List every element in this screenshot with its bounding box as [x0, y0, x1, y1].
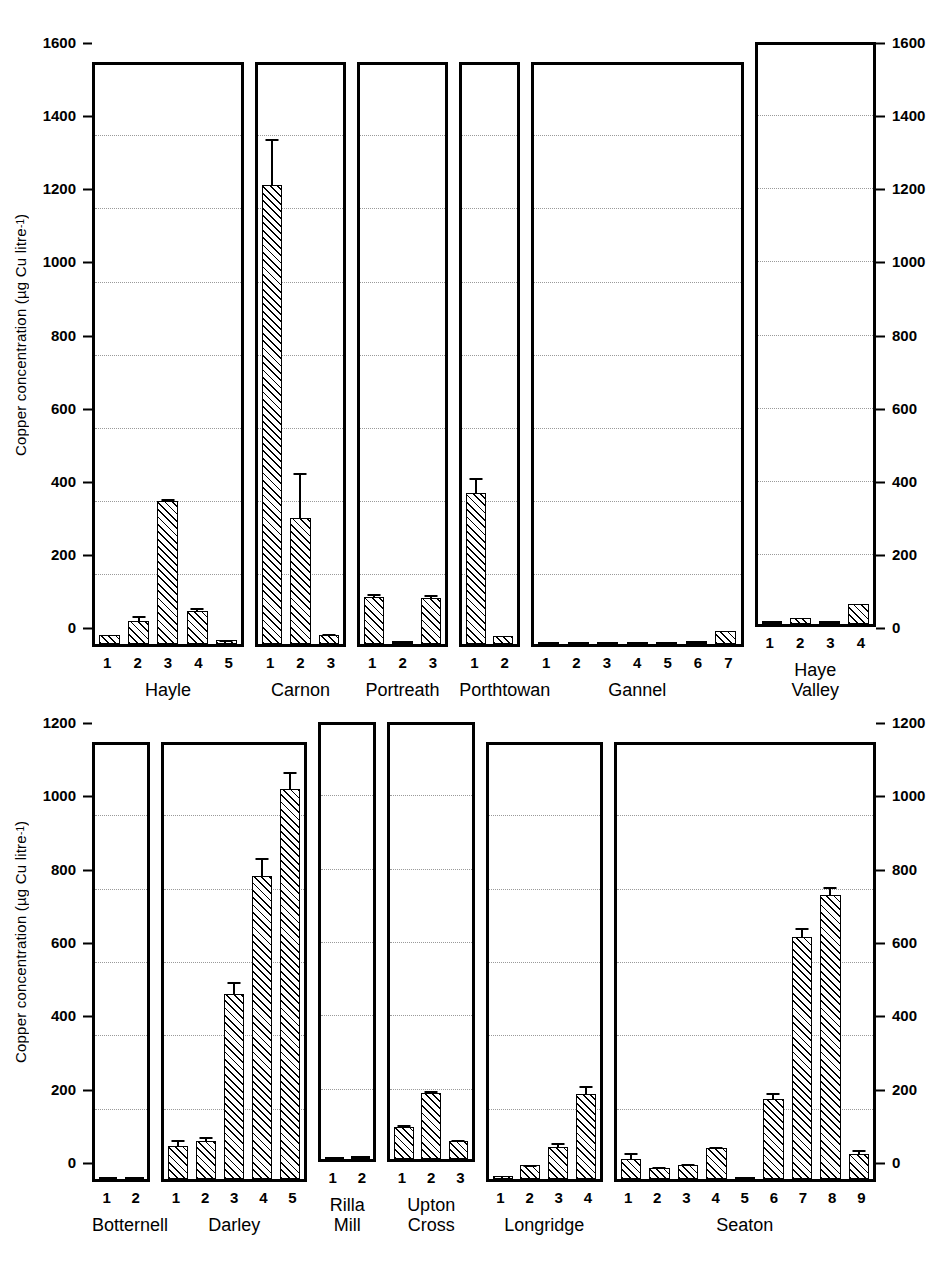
site-panel: 12345Hayle: [92, 62, 244, 700]
bar-slot: [192, 745, 220, 1179]
y-tick-label: 400: [876, 1007, 917, 1024]
bar-slot: [360, 65, 388, 644]
y-tick-label: 1600: [43, 34, 92, 51]
error-bar: [196, 608, 198, 611]
error-bar-cap: [795, 928, 808, 930]
error-bar: [403, 1125, 405, 1129]
x-tick-label: 5: [652, 654, 682, 671]
bar: [790, 618, 811, 625]
x-tick-label: 3: [815, 634, 845, 651]
y-tick-label: 200: [51, 1080, 92, 1097]
y-axis-title: Copper concentration (µg Cu litre-1): [0, 42, 40, 627]
x-tick-label: 2: [490, 654, 520, 671]
bar-group: [360, 65, 445, 644]
error-bar-cap: [424, 595, 437, 597]
site-panel: 123Carnon: [255, 62, 346, 700]
chart-panel-bottom: Copper concentration (µg Cu litre-1)0200…: [0, 700, 934, 1286]
figure-copper-concentration: Copper concentration (µg Cu litre-1)0200…: [0, 0, 934, 1286]
x-tick-label: 4: [846, 634, 876, 651]
bar: [763, 1099, 784, 1179]
panel-row: 12Botternell12345Darley12RillaMill123Upt…: [92, 722, 876, 1235]
bar-slot: [563, 65, 593, 644]
y-tick-label: 600: [51, 399, 92, 416]
y-tick-label: 1000: [876, 787, 925, 804]
bar-group: [321, 725, 373, 1159]
y-tick-label: 600: [51, 934, 92, 951]
bar: [678, 1165, 699, 1179]
y-tick-label: 1000: [43, 253, 92, 270]
bar: [849, 1154, 870, 1179]
site-label: Longridge: [486, 1206, 603, 1235]
bar: [99, 635, 120, 644]
x-tick-labels: 12345: [161, 1182, 307, 1206]
bar: [621, 1159, 642, 1179]
bar: [762, 621, 783, 624]
bar: [576, 1094, 596, 1179]
bar: [290, 518, 310, 645]
x-tick-labels: 1234: [755, 627, 877, 651]
bar-slot: [276, 745, 304, 1179]
bar-slot: [95, 65, 124, 644]
site-panel: 12RillaMill: [318, 722, 376, 1235]
error-bar-cap: [624, 1153, 637, 1155]
bar-group: [164, 745, 304, 1179]
site-panel: 123456789Seaton: [614, 742, 876, 1235]
bar: [792, 937, 813, 1179]
bar-slot: [212, 65, 241, 644]
x-tick-label: 2: [417, 1169, 446, 1186]
plot-box: [161, 742, 307, 1182]
error-bar-cap: [452, 1140, 465, 1142]
bar-slot: [731, 745, 760, 1179]
x-tick-label: 1: [255, 654, 285, 671]
site-label: Hayle: [92, 671, 244, 700]
x-tick-label: 3: [418, 654, 448, 671]
error-bar-cap: [200, 1137, 213, 1139]
site-panel: 1234HayeValley: [755, 42, 877, 700]
bar-slot: [347, 725, 373, 1159]
y-tick-label: 1200: [43, 714, 92, 731]
x-tick-label: 7: [713, 654, 743, 671]
x-tick-labels: 123: [387, 1162, 474, 1186]
error-bar: [167, 499, 169, 502]
bar-slot: [418, 725, 445, 1159]
x-tick-label: 3: [446, 1169, 475, 1186]
error-bar: [457, 1140, 459, 1142]
site-label: UptonCross: [387, 1186, 474, 1235]
bar: [351, 1156, 370, 1159]
y-tick-label: 200: [876, 545, 917, 562]
error-bar-cap: [256, 858, 269, 860]
error-bar: [430, 595, 432, 599]
bar-slot: [248, 745, 276, 1179]
bar: [627, 642, 648, 645]
x-tick-label: 2: [785, 634, 815, 651]
error-bar: [585, 1086, 587, 1095]
x-tick-label: 5: [214, 654, 244, 671]
site-label: Darley: [161, 1206, 307, 1235]
x-tick-label: 2: [347, 1169, 376, 1186]
bar-slot: [321, 725, 347, 1159]
x-tick-label: 9: [847, 1189, 876, 1206]
bar: [548, 1147, 568, 1179]
site-label: RillaMill: [318, 1186, 376, 1235]
bar: [686, 641, 707, 644]
x-tick-label: 5: [278, 1189, 307, 1206]
y-tick-label: 800: [876, 860, 917, 877]
bar-slot: [220, 745, 248, 1179]
bar-group: [95, 745, 147, 1179]
error-bar: [261, 858, 263, 877]
bar: [99, 1177, 118, 1180]
bar-slot: [417, 65, 445, 644]
bar: [493, 636, 513, 644]
x-tick-label: 2: [515, 1189, 544, 1206]
x-tick-label: 3: [672, 1189, 701, 1206]
bar: [280, 789, 300, 1179]
bar-slot: [462, 65, 489, 644]
error-bar-cap: [767, 1093, 780, 1095]
y-tick-label: 400: [51, 472, 92, 489]
bar-slot: [816, 745, 845, 1179]
x-tick-label: 5: [730, 1189, 759, 1206]
bar-slot: [390, 725, 417, 1159]
y-tick-label: 1400: [876, 107, 925, 124]
bar: [656, 642, 677, 645]
y-tick-label: 1000: [43, 787, 92, 804]
